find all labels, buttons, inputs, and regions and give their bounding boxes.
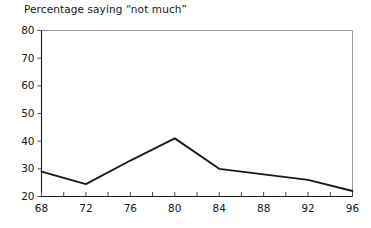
- y-tick-label: 60: [21, 79, 34, 91]
- x-tick-label: 92: [301, 202, 314, 214]
- x-tick-label: 88: [257, 202, 270, 214]
- y-tick-label: 20: [21, 190, 34, 202]
- x-tick-label: 96: [346, 202, 360, 214]
- chart-container: Percentage saying “not much” 20304050607…: [0, 0, 371, 228]
- y-tick-label: 80: [21, 24, 34, 36]
- x-axis-tick-labels: 6872768084889296: [35, 202, 360, 214]
- y-tick-label: 30: [21, 162, 34, 174]
- x-tick-label: 84: [213, 202, 227, 214]
- line-chart-plot: 20304050607080 6872768084889296: [0, 0, 371, 228]
- x-tick-label: 76: [124, 202, 138, 214]
- x-axis-ticks: [42, 192, 353, 197]
- y-axis-tick-labels: 20304050607080: [21, 24, 34, 202]
- data-series-group: [42, 138, 353, 191]
- x-tick-label: 68: [35, 202, 48, 214]
- y-tick-label: 40: [21, 135, 34, 147]
- data-series-line: [42, 138, 353, 191]
- x-tick-label: 80: [168, 202, 181, 214]
- plot-frame: [42, 31, 353, 197]
- x-tick-label: 72: [79, 202, 92, 214]
- y-tick-label: 70: [21, 52, 34, 64]
- y-tick-label: 50: [21, 107, 34, 119]
